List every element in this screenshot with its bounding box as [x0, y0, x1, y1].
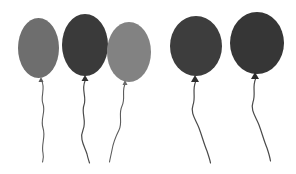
balloon-5-body[interactable] [230, 12, 284, 74]
balloon-2-body[interactable] [62, 14, 108, 76]
balloons-canvas [0, 0, 296, 174]
balloon-4-body[interactable] [170, 16, 222, 76]
balloon-3-body[interactable] [107, 22, 151, 82]
balloon-1-body[interactable] [18, 18, 59, 78]
balloons-scene [0, 0, 296, 174]
